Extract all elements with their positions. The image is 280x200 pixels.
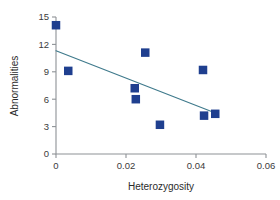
y-tick-label-1: 3 [44,121,49,132]
y-tick-label-3: 9 [44,66,49,77]
data-point-8 [211,110,220,119]
scatter-chart: 0369121500.020.040.06 Heterozygosity Abn… [0,0,280,200]
data-point-6 [199,66,208,75]
data-points [52,21,220,129]
y-tick-label-5: 15 [38,11,49,22]
y-axis-title: Abnormalities [9,56,20,117]
x-tick-label-0: 0 [53,160,58,171]
data-point-4 [141,48,150,57]
plot-area: 0369121500.020.040.06 Heterozygosity Abn… [0,0,280,200]
axis-ticks [52,17,266,158]
axis-lines [56,17,266,154]
x-tick-label-2: 0.04 [187,160,206,171]
data-point-3 [132,95,141,104]
axes [56,17,266,154]
data-point-2 [131,84,140,93]
data-point-5 [156,121,165,130]
y-tick-label-4: 12 [38,39,49,50]
data-point-7 [200,111,209,120]
x-tick-label-1: 0.02 [117,160,136,171]
data-point-0 [52,21,61,30]
y-tick-label-2: 6 [44,94,49,105]
x-tick-label-3: 0.06 [257,160,276,171]
y-tick-label-0: 0 [44,148,49,159]
axis-tick-labels: 0369121500.020.040.06 [38,11,275,171]
data-point-1 [64,67,73,76]
x-axis-title: Heterozygosity [128,181,194,192]
